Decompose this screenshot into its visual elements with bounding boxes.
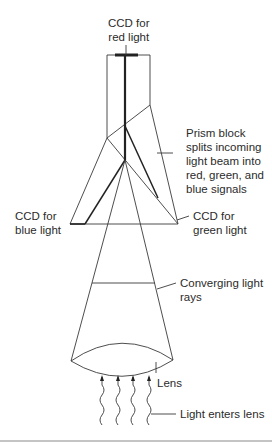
ccd-green-leader [177, 216, 189, 220]
ccd-blue-label: CCD for blue light [15, 209, 61, 237]
lens-label: Lens [157, 376, 182, 390]
ccd-red-label: CCD for red light [108, 16, 150, 44]
light-arrow [131, 375, 135, 425]
converging-rays [71, 160, 173, 361]
converging-ray-right [125, 160, 173, 360]
light-arrow [116, 375, 120, 425]
light-arrow [100, 375, 104, 425]
prism-left-outer-edge [70, 138, 107, 224]
converging-ray-left [71, 160, 125, 361]
green-beam [125, 126, 158, 198]
lens-shape [71, 343, 173, 376]
light-enters-label: Light enters lens [180, 407, 264, 421]
prism-label: Prism block splits incoming light beam i… [186, 126, 264, 196]
converging-label: Converging light rays [180, 276, 263, 304]
prism-green-splitter [107, 138, 178, 224]
converging-leader [157, 283, 176, 289]
ccd-green-label: CCD for green light [193, 209, 247, 237]
blue-beam [85, 160, 125, 224]
light-beams [85, 55, 158, 224]
incoming-light-arrows [100, 375, 151, 425]
light-arrow [147, 375, 151, 425]
prism-right-outer-edge [150, 105, 178, 224]
